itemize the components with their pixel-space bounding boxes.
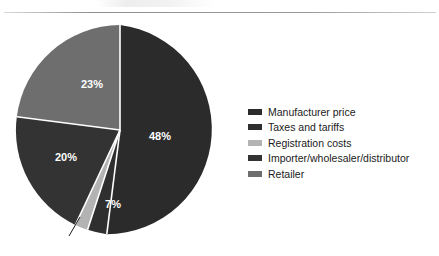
legend-item-label: Manufacturer price <box>268 106 356 118</box>
pie-label-20: 20% <box>55 151 77 163</box>
pie-label-2: 2% <box>50 238 66 240</box>
legend-swatch-icon <box>248 109 262 115</box>
legend-swatch-icon <box>248 140 262 146</box>
pie-slice-retailer[interactable] <box>17 25 120 130</box>
legend-item-registration-costs[interactable]: Registration costs <box>248 135 436 151</box>
legend-swatch-icon <box>248 155 262 161</box>
legend-item-label: Importer/wholesaler/distributor <box>268 152 409 164</box>
pie-chart-svg: 48% 7% 2% 20% 23% <box>8 22 234 240</box>
chart-legend: Manufacturer price Taxes and tariffs Reg… <box>248 104 436 182</box>
pie-label-23: 23% <box>81 78 103 90</box>
legend-swatch-icon <box>248 124 262 130</box>
header-divider-rule <box>4 12 436 13</box>
pie-label-48: 48% <box>149 130 171 142</box>
pie-label-7: 7% <box>105 198 121 210</box>
legend-swatch-icon <box>248 171 262 177</box>
legend-item-label: Registration costs <box>268 137 351 149</box>
legend-item-taxes-and-tariffs[interactable]: Taxes and tariffs <box>248 120 436 136</box>
page-header-remnant <box>96 0 216 7</box>
legend-item-importer-wholesaler-distributor[interactable]: Importer/wholesaler/distributor <box>248 151 436 167</box>
legend-item-label: Retailer <box>268 168 304 180</box>
legend-item-manufacturer-price[interactable]: Manufacturer price <box>248 104 436 120</box>
legend-item-label: Taxes and tariffs <box>268 121 344 133</box>
pie-chart-plot-area: 48% 7% 2% 20% 23% <box>8 22 234 240</box>
pie-chart-figure: 48% 7% 2% 20% 23% Manufacturer price Tax… <box>0 0 439 256</box>
legend-item-retailer[interactable]: Retailer <box>248 166 436 182</box>
